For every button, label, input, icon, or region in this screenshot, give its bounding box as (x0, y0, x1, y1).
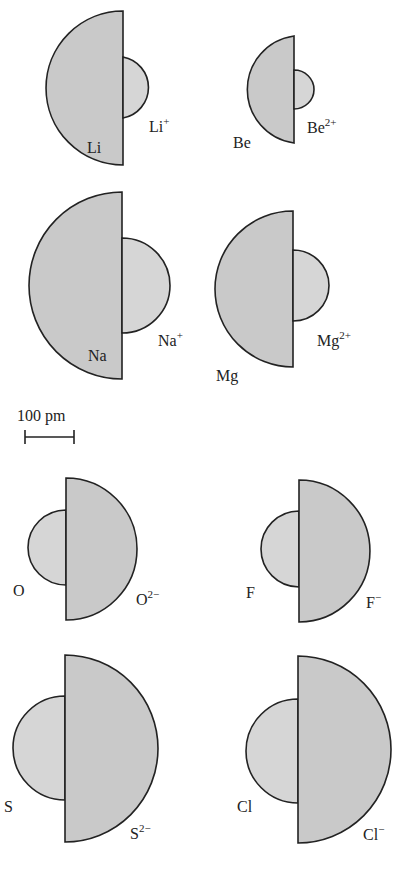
li-ion-halfcircle (123, 57, 148, 118)
be-ion-label: Be2+ (307, 116, 337, 136)
pair-li: Li Li+ (46, 11, 169, 165)
cl-atom-label: Cl (237, 798, 253, 815)
li-atom-label: Li (87, 139, 102, 156)
cl-ion-halfcircle (298, 656, 391, 843)
mg-atom-label: Mg (216, 367, 238, 385)
mg-ion-label: Mg2+ (317, 329, 351, 350)
pair-f: F F− (246, 480, 381, 622)
pair-o: O O2− (13, 478, 159, 620)
s-ion-halfcircle (65, 655, 158, 842)
pair-cl: Cl Cl− (237, 656, 391, 843)
be-ion-halfcircle (294, 70, 314, 109)
be-atom-label: Be (233, 134, 251, 151)
na-atom-label: Na (88, 347, 107, 364)
f-atom-halfcircle (261, 511, 299, 587)
li-atom-halfcircle (46, 11, 123, 165)
s-atom-halfcircle (13, 696, 65, 800)
pair-be: Be Be2+ (233, 36, 337, 151)
pair-na: Na Na+ (29, 192, 183, 379)
mg-ion-halfcircle (293, 250, 329, 321)
f-ion-halfcircle (299, 480, 370, 622)
pair-s: S S2− (4, 655, 158, 842)
na-ion-halfcircle (122, 238, 170, 333)
s-atom-label: S (4, 798, 13, 815)
mg-atom-halfcircle (215, 211, 293, 367)
be-atom-halfcircle (247, 36, 294, 143)
scale-bar-label: 100 pm (17, 407, 66, 425)
f-atom-label: F (246, 584, 255, 601)
o-ion-label: O2− (136, 588, 159, 608)
s-ion-label: S2− (130, 822, 151, 842)
radii-diagram: Li Li+ Be Be2+ Na Na+ Mg Mg2+ 100 pm O O… (0, 0, 413, 875)
o-ion-halfcircle (66, 478, 137, 620)
cl-atom-halfcircle (246, 699, 298, 803)
li-ion-label: Li+ (149, 115, 169, 135)
cl-ion-label: Cl− (363, 823, 384, 843)
pair-mg: Mg Mg2+ (215, 211, 351, 385)
o-atom-halfcircle (28, 510, 66, 585)
na-atom-halfcircle (29, 192, 122, 379)
na-ion-label: Na+ (158, 329, 183, 349)
f-ion-label: F− (366, 591, 381, 611)
scale-bar: 100 pm (17, 407, 74, 444)
o-atom-label: O (13, 582, 25, 599)
